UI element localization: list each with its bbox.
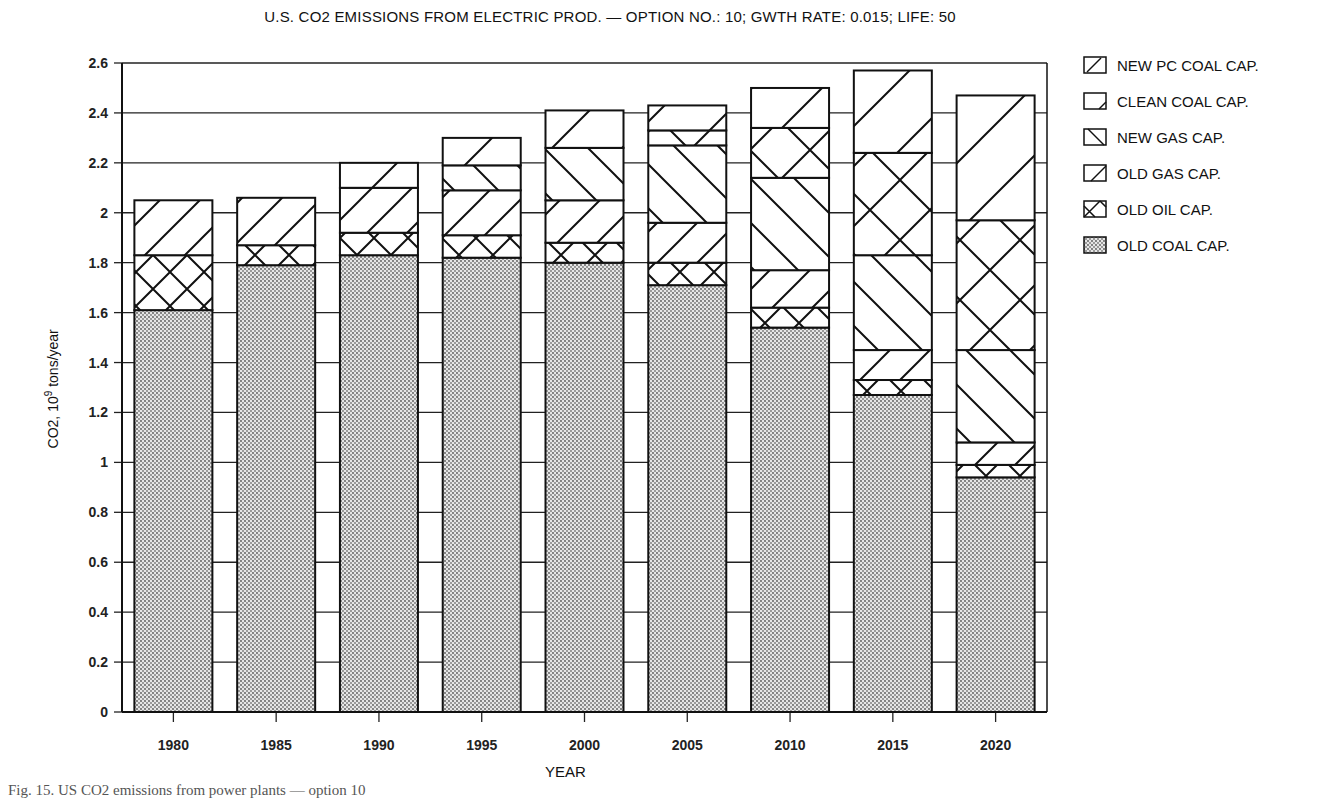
bar-segment [546,243,624,263]
bar-segment [751,308,829,328]
bar-segment [443,235,521,257]
x-tick-label: 2020 [980,737,1011,753]
bar-segment [957,477,1035,712]
bar-segment [648,145,726,222]
bar-segment [854,350,932,380]
y-tick-label: 0.4 [89,604,109,620]
bar-segment [854,255,932,350]
bar-1980 [134,200,212,712]
bar-1995 [443,138,521,712]
y-tick-label: 1.8 [89,255,109,271]
chart-title: U.S. CO2 EMISSIONS FROM ELECTRIC PROD. —… [150,8,1070,25]
legend-label: NEW GAS CAP. [1117,129,1225,146]
legend-item-old-oil: OLD OIL CAP. [1083,191,1259,227]
bar-segment [854,380,932,395]
bar-segment [443,138,521,165]
y-axis-label: CO2, 109 tons/year [43,289,61,489]
bar-segment [237,198,315,245]
y-tick-label: 2 [100,205,108,221]
bar-segment [648,285,726,712]
y-tick-label: 0 [100,704,108,720]
legend-item-new-gas: NEW GAS CAP. [1083,119,1259,155]
legend-swatch-corner-diagonal-icon [1083,92,1107,110]
legend-item-clean-coal: CLEAN COAL CAP. [1083,83,1259,119]
bar-2015 [854,70,932,712]
x-tick-label: 1995 [466,737,497,753]
bar-2000 [546,110,624,712]
bar-segment [134,255,212,310]
legend-label: OLD GAS CAP. [1117,165,1221,182]
legend-label: OLD OIL CAP. [1117,201,1213,218]
bar-segment [443,190,521,235]
bar-segment [957,465,1035,477]
legend: NEW PC COAL CAP. CLEAN COAL CAP. NEW GAS… [1083,47,1259,263]
x-axis-label: YEAR [545,763,586,780]
bar-segment [854,70,932,152]
bar-segment [443,258,521,712]
bar-2005 [648,105,726,712]
bar-segment [751,88,829,128]
x-tick-label: 2005 [672,737,703,753]
bar-segment [340,255,418,712]
x-tick-label: 1990 [363,737,394,753]
legend-label: CLEAN COAL CAP. [1117,93,1249,110]
bar-segment [648,223,726,263]
bar-1990 [340,163,418,712]
bar-segment [957,442,1035,464]
bar-2010 [751,88,829,712]
y-tick-label: 1.2 [89,404,109,420]
bar-segment [751,270,829,307]
y-axis-label-exponent: 9 [43,391,54,397]
bar-segment [546,148,624,200]
bar-segment [751,178,829,270]
bar-2020 [957,95,1035,712]
bar-segment [443,165,521,190]
y-tick-label: 2.6 [89,55,109,71]
y-tick-label: 1.6 [89,305,109,321]
x-tick-label: 1985 [261,737,292,753]
bar-segment [134,200,212,255]
bar-segment [546,263,624,712]
y-tick-label: 0.8 [89,504,109,520]
legend-swatch-crosshatch-icon [1083,200,1107,218]
legend-label: OLD COAL CAP. [1117,237,1230,254]
y-axis-label-main: CO2, 10 [45,396,61,448]
bar-segment [340,163,418,188]
legend-swatch-back-diagonal-icon [1083,128,1107,146]
bar-segment [751,128,829,178]
legend-label: NEW PC COAL CAP. [1117,57,1259,74]
bar-segment [957,95,1035,220]
x-tick-label: 2015 [877,737,908,753]
x-tick-label: 1980 [158,737,189,753]
y-tick-label: 1.4 [89,355,109,371]
y-tick-label: 2.2 [89,155,109,171]
bar-1985 [237,198,315,712]
bar-segment [751,328,829,712]
legend-swatch-dots-icon [1083,236,1107,254]
bar-segment [854,395,932,712]
bar-segment [340,233,418,255]
legend-swatch-wide-diagonal-icon [1083,56,1107,74]
x-tick-label: 2000 [569,737,600,753]
bar-segment [237,265,315,712]
y-tick-label: 0.6 [89,554,109,570]
bar-segment [648,105,726,130]
y-tick-label: 1 [100,454,108,470]
legend-item-old-coal: OLD COAL CAP. [1083,227,1259,263]
bar-segment [854,153,932,255]
bar-segment [340,188,418,233]
legend-item-old-gas: OLD GAS CAP. [1083,155,1259,191]
legend-swatch-forward-diagonal-icon [1083,164,1107,182]
bar-segment [648,130,726,145]
figure-caption: Fig. 15. US CO2 emissions from power pla… [8,782,366,799]
y-tick-label: 0.2 [89,654,109,670]
bar-segment [546,200,624,242]
bars [134,70,1034,712]
bar-segment [237,245,315,265]
bar-segment [957,220,1035,350]
bar-segment [957,350,1035,442]
bar-segment [134,310,212,712]
y-tick-label: 2.4 [89,105,109,121]
legend-item-new-pc-coal: NEW PC COAL CAP. [1083,47,1259,83]
x-tick-label: 2010 [774,737,805,753]
